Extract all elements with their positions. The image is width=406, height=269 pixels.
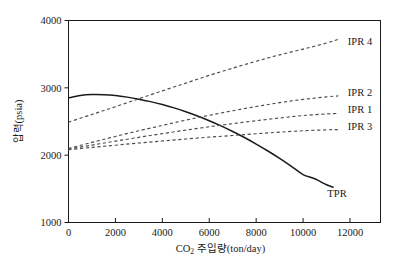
y-tick-label: 1000 <box>41 217 62 228</box>
series-label-tpr: TPR <box>327 188 347 199</box>
y-tick-label: 2000 <box>41 150 62 161</box>
x-tick-label: 0 <box>66 227 71 238</box>
x-tick-label: 12000 <box>337 227 363 238</box>
x-tick-label: 2000 <box>105 227 126 238</box>
y-axis-title: 압력(psia) <box>12 99 25 143</box>
x-tick-label: 8000 <box>246 227 267 238</box>
y-tick-label: 3000 <box>41 83 62 94</box>
series-label-ipr-4: IPR 4 <box>348 36 373 47</box>
series-label-ipr-3: IPR 3 <box>348 121 373 132</box>
x-tick-label: 6000 <box>199 227 220 238</box>
pressure-vs-co2-injection-chart: 020004000600080001000012000 100020003000… <box>0 0 406 269</box>
x-tick-label: 10000 <box>290 227 316 238</box>
x-tick-label: 4000 <box>152 227 173 238</box>
chart-figure: 020004000600080001000012000 100020003000… <box>0 0 406 269</box>
series-label-ipr-1: IPR 1 <box>348 104 373 115</box>
series-label-ipr-2: IPR 2 <box>348 87 373 98</box>
y-tick-label: 4000 <box>41 15 62 26</box>
